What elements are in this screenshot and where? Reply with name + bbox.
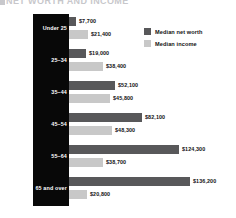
plot-area: Under 25 $7,700 $21,400 25–34 [0, 11, 236, 211]
category-label: Under 25 [43, 25, 67, 31]
bar-value-label: $20,800 [90, 191, 110, 197]
bar-value-label: $19,000 [89, 50, 109, 56]
bar-value-label: $124,300 [182, 146, 205, 152]
square-bullet-icon [0, 0, 5, 5]
bar-net-worth [69, 145, 179, 154]
bar-value-label: $38,700 [106, 159, 126, 165]
legend-item-income: Median income [144, 40, 203, 47]
bar-line-net-worth: $7,700 [69, 17, 236, 28]
bar-group: $136,200 $20,800 [69, 174, 236, 206]
bar-line-income: $38,700 [69, 158, 236, 169]
bar-value-label: $52,100 [118, 82, 138, 88]
bar-group: $52,100 $45,800 [69, 78, 236, 110]
chart-row: 65 and over $136,200 $20,800 [0, 174, 236, 206]
bar-line-income: $20,800 [69, 190, 236, 201]
chart-row: 55–64 $124,300 $38,700 [0, 142, 236, 174]
category-label: 55–64 [51, 153, 67, 159]
chart-legend: Median net worth Median income [144, 28, 203, 52]
bar-line-income: $38,400 [69, 62, 236, 73]
bar-line-net-worth: $82,100 [69, 113, 236, 124]
category-label: 35–44 [51, 89, 67, 95]
bar-line-income: $48,300 [69, 126, 236, 137]
bar-net-worth [69, 49, 86, 58]
bar-line-net-worth: $136,200 [69, 177, 236, 188]
bar-net-worth [69, 17, 76, 26]
page-title: NET WORTH AND INCOME [6, 0, 129, 6]
bar-net-worth [69, 177, 190, 186]
bar-net-worth [69, 113, 142, 122]
legend-swatch-icon [144, 28, 151, 35]
category-label: 25–34 [51, 57, 67, 63]
category-label: 45–54 [51, 121, 67, 127]
bar-group: $124,300 $38,700 [69, 142, 236, 174]
bar-line-income: $45,800 [69, 94, 236, 105]
legend-item-net-worth: Median net worth [144, 28, 203, 35]
bar-value-label: $45,800 [113, 95, 133, 101]
chart-title-strip: NET WORTH AND INCOME [0, 0, 236, 9]
bar-income [69, 158, 103, 167]
bar-value-label: $82,100 [145, 114, 165, 120]
bar-value-label: $7,700 [79, 18, 96, 24]
chart-figure: NET WORTH AND INCOME Under 25 $7,700 $21… [0, 0, 236, 218]
legend-label: Median net worth [155, 29, 203, 35]
bar-value-label: $38,400 [106, 63, 126, 69]
bar-line-net-worth: $124,300 [69, 145, 236, 156]
chart-row: 35–44 $52,100 $45,800 [0, 78, 236, 110]
bar-value-label: $21,400 [91, 31, 111, 37]
bar-income [69, 30, 88, 39]
legend-swatch-icon [144, 40, 151, 47]
legend-label: Median income [155, 41, 197, 47]
bar-income [69, 190, 87, 199]
bar-income [69, 94, 110, 103]
bar-value-label: $136,200 [193, 178, 216, 184]
bar-line-net-worth: $52,100 [69, 81, 236, 92]
bar-net-worth [69, 81, 115, 90]
bar-group: $82,100 $48,300 [69, 110, 236, 142]
bar-income [69, 126, 112, 135]
chart-row: 45–54 $82,100 $48,300 [0, 110, 236, 142]
bar-income [69, 62, 103, 71]
bar-value-label: $48,300 [115, 127, 135, 133]
category-label: 65 and over [35, 185, 67, 191]
